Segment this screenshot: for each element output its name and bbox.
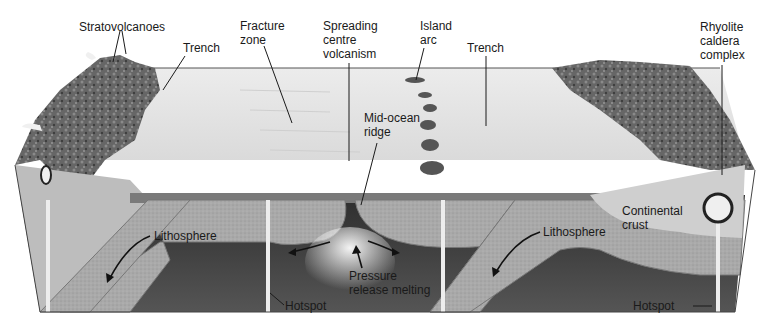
label-fracture-zone: Fracture zone <box>240 19 288 47</box>
rhyolite-magma-chamber <box>704 194 732 222</box>
label-rhyolite-caldera: Rhyolite caldera complex <box>700 20 747 62</box>
label-trench-left: Trench <box>183 41 220 55</box>
label-pressure-release-line-1: Pressure <box>349 269 397 283</box>
label-spreading-centre-line-3: volcanism <box>323 47 376 61</box>
steam-plume-left-1 <box>86 52 96 60</box>
label-hotspot-center: Hotspot <box>285 299 327 313</box>
label-stratovolcanoes: Stratovolcanoes <box>79 20 165 34</box>
hotspot-plume-center <box>266 200 270 312</box>
label-rhyolite-line-1: Rhyolite <box>700 20 744 34</box>
hotspot-plume-arc <box>441 200 445 312</box>
hotspot-plume-left <box>46 200 50 312</box>
label-spreading-centre-line-1: Spreading <box>323 19 378 33</box>
left-magma-chamber <box>41 166 51 184</box>
label-island-arc-line-1: Island <box>420 19 452 33</box>
left-mountain-range <box>15 55 160 180</box>
label-fracture-zone-line-2: zone <box>240 33 266 47</box>
label-continental-crust-line-1: Continental <box>622 204 683 218</box>
hotspot-plume-right <box>716 212 720 312</box>
label-spreading-centre-line-2: centre <box>323 33 357 47</box>
label-spreading-centre: Spreading centre volcanism <box>323 19 381 61</box>
label-lithosphere-left: Lithosphere <box>154 229 217 243</box>
label-rhyolite-line-2: caldera <box>700 34 740 48</box>
label-hotspot-right: Hotspot <box>633 299 675 313</box>
label-rhyolite-line-3: complex <box>700 48 745 62</box>
label-fracture-zone-line-1: Fracture <box>240 19 285 33</box>
label-island-arc: Island arc <box>420 19 455 47</box>
label-island-arc-line-2: arc <box>420 33 437 47</box>
label-trench-right: Trench <box>467 41 504 55</box>
leader-stratovolcanoes-2 <box>122 31 126 54</box>
plate-tectonics-diagram: Stratovolcanoes Trench Fracture zone Spr… <box>0 0 770 332</box>
label-mid-ocean-ridge-line-2: ridge <box>364 125 391 139</box>
label-mid-ocean-ridge-line-1: Mid-ocean <box>364 111 420 125</box>
label-pressure-release-line-2: release melting <box>349 283 430 297</box>
label-lithosphere-right: Lithosphere <box>543 225 606 239</box>
label-continental-crust-line-2: crust <box>622 218 649 232</box>
